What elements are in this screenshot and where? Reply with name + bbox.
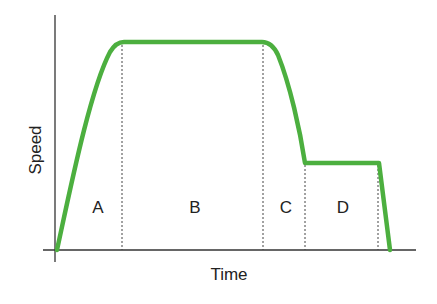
speed-time-diagram: A B C D Time Speed xyxy=(0,0,437,304)
region-label-d: D xyxy=(337,198,349,217)
region-label-a: A xyxy=(92,198,104,217)
x-axis-label: Time xyxy=(210,265,247,284)
region-label-b: B xyxy=(189,198,200,217)
y-axis-label: Speed xyxy=(26,125,45,174)
region-label-c: C xyxy=(280,198,292,217)
speed-curve xyxy=(57,42,390,250)
